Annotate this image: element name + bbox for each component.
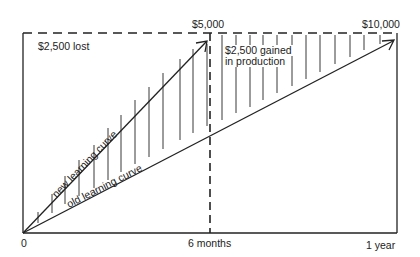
x-tick-6-months: 6 months: [188, 238, 231, 249]
value-5000-label: $5,000: [192, 19, 224, 30]
value-10000-label: $10,000: [362, 19, 400, 30]
x-tick-0: 0: [21, 238, 27, 249]
gained-label-line1: $2,500 gained: [224, 45, 293, 56]
hatch-gain-left: [38, 44, 207, 223]
lost-label: $2,500 lost: [38, 41, 89, 52]
x-tick-1-year: 1 year: [366, 240, 395, 251]
learning-curve-diagram: [0, 0, 420, 257]
gained-label-line2: in production: [224, 56, 286, 67]
